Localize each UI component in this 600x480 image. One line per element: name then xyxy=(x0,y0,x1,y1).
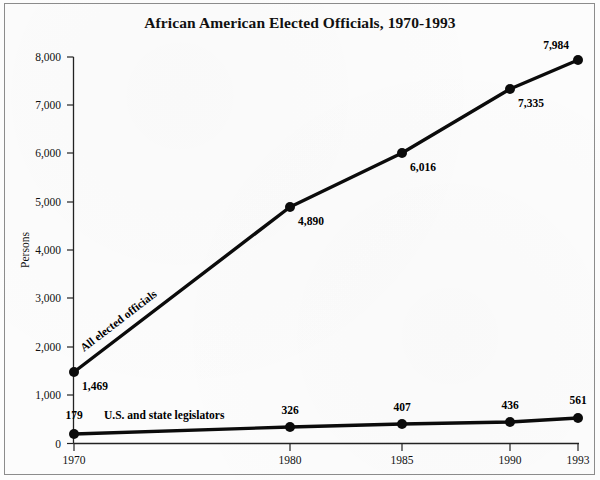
axis-lines xyxy=(74,57,580,444)
value-label-upper-1993: 7,984 xyxy=(543,39,569,51)
series-annotation-lower: U.S. and state legislators xyxy=(104,409,225,422)
y-tick-label-5000: 5,000 xyxy=(35,196,61,209)
y-axis-title: Persons xyxy=(19,232,31,268)
value-label-lower-1993: 561 xyxy=(569,394,587,406)
value-label-lower-1985: 407 xyxy=(393,401,411,413)
line-chart: Persons 8,000 7,000 6,000 5,000 4,000 3,… xyxy=(0,0,600,480)
value-label-lower-1970: 179 xyxy=(65,409,83,421)
y-tick-label-0: 0 xyxy=(55,438,61,450)
data-point-upper-1970 xyxy=(69,367,79,377)
data-point-upper-1990 xyxy=(505,84,515,94)
data-point-upper-1980 xyxy=(285,202,295,212)
series-line-upper xyxy=(74,60,578,372)
y-axis-ticks: 8,000 7,000 6,000 5,000 4,000 3,000 2,00… xyxy=(35,51,73,450)
data-point-upper-1985 xyxy=(397,148,407,158)
y-tick-label-8000: 8,000 xyxy=(35,51,61,64)
value-label-upper-1985: 6,016 xyxy=(410,161,436,173)
x-tick-label-1980: 1980 xyxy=(279,454,302,466)
y-axis-title-group: Persons xyxy=(19,232,31,268)
x-axis-ticks: 1970 1980 1985 1990 1993 xyxy=(63,444,590,467)
y-tick-label-4000: 4,000 xyxy=(35,244,61,257)
data-point-lower-1993 xyxy=(573,413,583,423)
x-tick-label-1990: 1990 xyxy=(499,454,522,466)
data-point-lower-1970 xyxy=(69,429,79,439)
y-tick-label-7000: 7,000 xyxy=(35,99,61,112)
data-point-lower-1990 xyxy=(505,417,515,427)
series-all-elected-officials: 1,469 4,890 6,016 7,335 7,984 All electe… xyxy=(69,39,583,392)
data-point-upper-1993 xyxy=(573,55,583,65)
data-point-lower-1985 xyxy=(397,419,407,429)
y-tick-label-6000: 6,000 xyxy=(35,147,61,160)
y-tick-label-3000: 3,000 xyxy=(35,292,61,305)
x-tick-label-1985: 1985 xyxy=(391,454,414,466)
series-us-and-state-legislators: 179 326 407 436 561 U.S. and state legis… xyxy=(65,394,587,439)
value-label-lower-1980: 326 xyxy=(281,404,299,416)
y-tick-label-2000: 2,000 xyxy=(35,341,61,354)
x-tick-label-1970: 1970 xyxy=(63,454,86,466)
value-label-upper-1980: 4,890 xyxy=(298,215,324,227)
value-label-upper-1990: 7,335 xyxy=(518,97,544,109)
chart-page: African American Elected Officials, 1970… xyxy=(0,0,600,480)
value-label-lower-1990: 436 xyxy=(501,399,519,411)
value-label-upper-1970: 1,469 xyxy=(82,380,108,392)
y-tick-label-1000: 1,000 xyxy=(35,389,61,402)
data-point-lower-1980 xyxy=(285,422,295,432)
x-tick-label-1993: 1993 xyxy=(567,454,590,466)
series-annotation-upper: All elected officials xyxy=(78,287,159,353)
